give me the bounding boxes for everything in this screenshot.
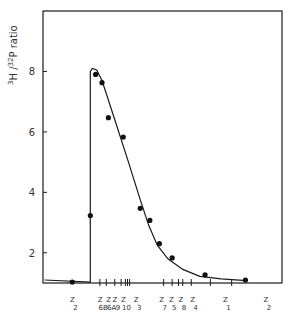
zone-letter: Z <box>113 296 118 304</box>
data-point <box>106 115 111 120</box>
y-label-base1: H / <box>8 66 19 81</box>
data-point <box>170 255 175 260</box>
zone-letter: Z <box>106 296 111 304</box>
zone-letter: Z <box>121 296 126 304</box>
y-axis: 2468 <box>29 66 47 258</box>
y-tick-label: 4 <box>29 187 35 198</box>
data-point <box>93 72 98 77</box>
zone-subscript: 7 <box>163 304 167 312</box>
zone-subscript: 3 <box>137 304 141 312</box>
zone-subscript: 9 <box>116 304 120 312</box>
zone-subscript: 8 <box>182 304 186 312</box>
y-label-sup2: 32 <box>7 58 15 67</box>
zone-letter: Z <box>159 296 164 304</box>
data-point <box>121 134 126 139</box>
zone-letter: Z <box>190 296 195 304</box>
zone-subscript: 4 <box>193 304 198 312</box>
data-point <box>147 218 152 223</box>
data-point <box>243 277 248 282</box>
zone-subscript: 10 <box>122 304 131 312</box>
zone-label: Z1 <box>223 296 231 312</box>
zone-letter: Z <box>98 296 103 304</box>
zone-subscript: 1 <box>226 304 230 312</box>
y-label-base2: P ratio <box>8 25 19 57</box>
data-point <box>157 241 162 246</box>
zone-letter: Z <box>223 296 228 304</box>
y-tick-label: 2 <box>29 248 35 259</box>
fitted-curve <box>45 68 247 282</box>
data-point <box>99 80 104 85</box>
chart: 2468 Z2Z6BZ6AZ9Z10Z3Z7Z5Z8Z4Z1Z2 3H /32P… <box>0 0 291 313</box>
data-point <box>70 279 75 284</box>
zone-label: Z2 <box>263 296 271 312</box>
zone-letter: Z <box>178 296 183 304</box>
plot-frame <box>43 11 282 283</box>
zone-subscript: 5 <box>172 304 176 312</box>
y-tick-label: 6 <box>29 127 35 138</box>
plot-border <box>43 11 282 283</box>
zone-label: Z3 <box>134 296 142 312</box>
data-point <box>88 213 93 218</box>
zone-subscript: 2 <box>73 304 77 312</box>
fitted-curve-line <box>45 68 247 282</box>
zone-label: Z5 <box>169 296 177 312</box>
zone-letter: Z <box>169 296 174 304</box>
zone-label: Z8 <box>178 296 186 312</box>
zone-label: Z10 <box>121 296 131 312</box>
zone-label: Z7 <box>159 296 167 312</box>
zone-letter: Z <box>70 296 75 304</box>
zone-label: Z4 <box>190 296 198 312</box>
data-points <box>70 72 248 285</box>
zone-subscript: 2 <box>267 304 271 312</box>
zone-letter: Z <box>134 296 139 304</box>
data-point <box>202 272 207 277</box>
y-axis-label: 3H /32P ratio <box>7 25 19 85</box>
data-point <box>138 206 143 211</box>
y-tick-label: 8 <box>29 66 35 77</box>
zone-label: Z2 <box>70 296 78 312</box>
zone-letter: Z <box>263 296 268 304</box>
zone-labels: Z2Z6BZ6AZ9Z10Z3Z7Z5Z8Z4Z1Z2 <box>70 296 271 312</box>
